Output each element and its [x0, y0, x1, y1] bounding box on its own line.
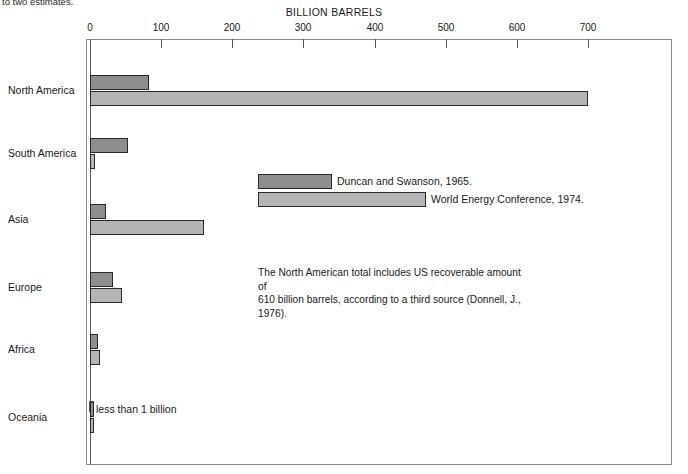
category-label-north-america: North America: [8, 84, 75, 96]
oceania-annotation-label: less than 1 billion: [96, 403, 177, 415]
bar-oceania-series-2: [90, 418, 94, 433]
bar-africa-series-2: [90, 350, 100, 365]
category-label-asia: Asia: [8, 213, 28, 225]
chart-title-text: BILLION BARRELS: [286, 6, 383, 18]
category-label-oceania: Oceania: [8, 411, 47, 423]
bar-north-america-series-2: [90, 91, 588, 106]
chart-note: The North American total includes US rec…: [258, 266, 530, 320]
x-axis-tick-label-500: 500: [438, 22, 455, 33]
x-axis-tick-label-200: 200: [224, 22, 241, 33]
x-axis-tick-label-0: 0: [87, 22, 93, 33]
x-axis-tick-labels: 0100200300400500600700: [0, 22, 688, 36]
legend-label-series-1: Duncan and Swanson, 1965.: [337, 175, 472, 187]
x-axis-tick-label-300: 300: [295, 22, 312, 33]
bar-asia-series-1: [90, 204, 106, 219]
x-axis-tick-500: [446, 39, 447, 48]
bar-south-america-series-2: [90, 154, 95, 169]
x-axis-tick-300: [303, 39, 304, 48]
category-label-south-america: South America: [8, 147, 76, 159]
bar-europe-series-2: [90, 288, 122, 303]
bar-south-america-series-1: [90, 138, 128, 153]
bar-asia-series-2: [90, 220, 204, 235]
bar-europe-series-1: [90, 272, 113, 287]
x-axis-tick-700: [588, 39, 589, 48]
x-axis-tick-600: [517, 39, 518, 48]
x-axis-tick-0: [90, 39, 91, 48]
chart-note-line-1: The North American total includes US rec…: [258, 266, 530, 293]
chart-canvas: to two estimates. BILLION BARRELS 010020…: [0, 0, 688, 474]
bar-north-america-series-1: [90, 75, 149, 90]
legend-label-series-2: World Energy Conference, 1974.: [431, 193, 584, 205]
chart-note-line-2: 610 billion barrels, according to a thir…: [258, 293, 530, 307]
oceania-annotation-bracket: [89, 401, 94, 412]
legend-swatch-series-1: [258, 174, 332, 189]
legend-swatch-series-2: [258, 192, 426, 207]
x-axis-tick-label-700: 700: [580, 22, 597, 33]
chart-note-line-3: 1976).: [258, 307, 530, 321]
category-label-europe: Europe: [8, 281, 42, 293]
bar-africa-series-1: [90, 334, 98, 349]
x-axis-tick-400: [375, 39, 376, 48]
x-axis-tick-label-100: 100: [153, 22, 170, 33]
chart-title: BILLION BARRELS: [0, 6, 688, 18]
x-axis-tick-200: [232, 39, 233, 48]
x-axis-tick-label-400: 400: [367, 22, 384, 33]
x-axis-tick-label-600: 600: [509, 22, 526, 33]
x-axis-tick-100: [161, 39, 162, 48]
category-label-africa: Africa: [8, 343, 35, 355]
